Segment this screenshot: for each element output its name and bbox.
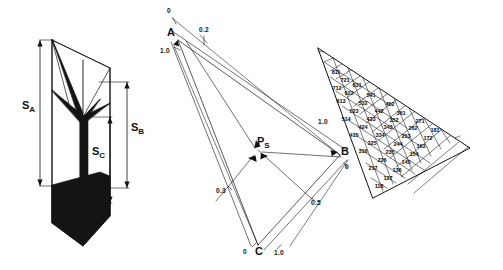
span-label-sc-sub: C: [99, 151, 105, 160]
wedge-facet-f: [52, 90, 69, 104]
tick-label-05: 0.5: [311, 200, 321, 207]
comp-grid-family-2: [318, 51, 468, 193]
span-label-sb: SB: [131, 122, 144, 136]
figure-canvas: SA SB SC A B C PS 0 0.2 1.0 1.0 0 0.3 0.…: [0, 0, 503, 270]
wedge-facet-c: [52, 40, 69, 104]
vertex-label-a: A: [167, 27, 175, 38]
tick-label-02: 0.2: [199, 27, 209, 34]
bary-edge-bc-offset: [264, 160, 347, 250]
tick-label-b-one: 1.0: [318, 119, 328, 126]
wedge-stem-thick: [80, 116, 88, 196]
span-label-sc: SC: [92, 146, 105, 160]
bary-edge-ca: [178, 40, 258, 245]
bary-axis-c-ray: [174, 46, 258, 245]
point-label-ps-sub: S: [264, 141, 269, 150]
bary-coordline-to-bc: [258, 150, 312, 199]
vertex-label-b: B: [341, 146, 349, 157]
tick-label-c-one: 1.0: [274, 250, 284, 257]
dimension-sa: [37, 40, 54, 186]
barycentric-diagram-group: [171, 18, 348, 250]
bary-edge-bc: [258, 155, 340, 245]
comp-grid-family-1: [333, 58, 460, 191]
bary-coordline-to-b: [262, 152, 341, 157]
bary-axis-arrowheads: [173, 40, 338, 156]
point-label-ps: PS: [257, 136, 270, 150]
tick-label-a-one: 1.0: [160, 48, 170, 55]
vertex-label-c: C: [255, 246, 263, 257]
bary-axis-a-ray: [172, 18, 340, 155]
comp-triangle-outline: [318, 48, 470, 198]
span-label-sb-sub: B: [138, 127, 144, 136]
span-label-sa-sub: A: [29, 105, 35, 114]
tick-label-c-zero: 0: [243, 249, 247, 256]
tick-label-b-zero: 0: [345, 164, 349, 171]
tick-label-03: 0.3: [216, 188, 226, 195]
figure-vector-layer: [0, 0, 503, 270]
bary-coordline-to-a: [186, 41, 255, 148]
tick-label-a-zero: 0: [167, 8, 171, 15]
composition-triangle-group: [318, 48, 470, 198]
wedge-diagram-group: [37, 40, 129, 246]
bary-coordline-to-c: [228, 155, 254, 187]
dimension-sb: [99, 82, 130, 188]
span-label-sa: SA: [22, 100, 35, 114]
